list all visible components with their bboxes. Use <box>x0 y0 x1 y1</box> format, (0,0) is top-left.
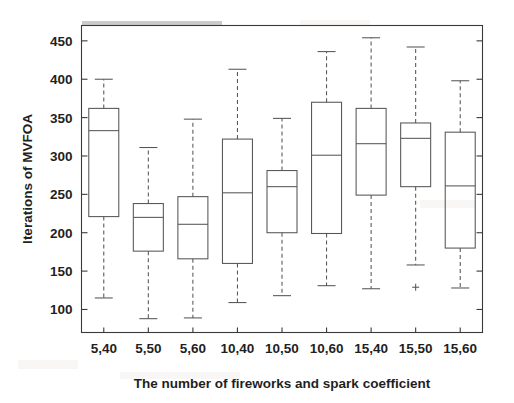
x-axis-title: The number of fireworks and spark coeffi… <box>134 376 431 391</box>
y-tick-label: 250 <box>50 187 73 202</box>
chart-container: 100150200250300350400450 5,405,505,6010,… <box>0 0 514 403</box>
y-tick-label: 200 <box>50 226 73 241</box>
x-tick-label: 10,40 <box>221 341 255 356</box>
x-tick-label: 15,50 <box>399 341 433 356</box>
y-axis-title: Iterations of MVFOA <box>20 114 35 244</box>
y-tick-label: 300 <box>50 149 73 164</box>
y-tick-label: 400 <box>50 72 73 87</box>
y-tick-label: 350 <box>50 111 73 126</box>
boxplot-chart: 100150200250300350400450 5,405,505,6010,… <box>0 0 514 403</box>
x-tick-label: 5,50 <box>135 341 161 356</box>
x-tick-label: 5,40 <box>91 341 117 356</box>
x-tick-label: 10,60 <box>310 341 344 356</box>
x-tick-label: 5,60 <box>180 341 206 356</box>
x-tick-label: 15,40 <box>354 341 388 356</box>
y-tick-label: 100 <box>50 302 73 317</box>
x-tick-label: 15,60 <box>443 341 477 356</box>
y-tick-label: 450 <box>50 34 73 49</box>
y-tick-label: 150 <box>50 264 73 279</box>
x-tick-label: 10,50 <box>265 341 299 356</box>
